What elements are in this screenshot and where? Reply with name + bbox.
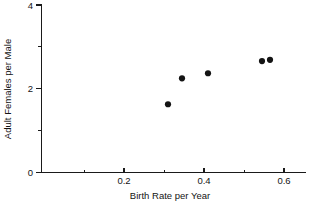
y-tick-label-4: 4: [28, 0, 33, 11]
x-tick-label-06: 0.6: [277, 175, 290, 186]
x-axis-major-ticks: [124, 168, 284, 173]
data-point-group: [165, 57, 273, 108]
y-tick-label-2: 2: [28, 83, 33, 94]
x-tick-label-04: 0.4: [197, 175, 210, 186]
data-point: [179, 75, 185, 81]
data-point: [259, 58, 265, 64]
data-point: [205, 70, 211, 76]
data-point: [165, 101, 171, 107]
y-axis-major-ticks: [36, 5, 42, 173]
x-axis-title: Birth Rate per Year: [130, 190, 210, 201]
plot-canvas: 0 2 4 0.2 0.4 0.6 Birth Rate per Year Ad…: [0, 0, 312, 207]
data-point: [267, 57, 273, 63]
y-tick-label-0: 0: [28, 167, 33, 178]
y-axis-title: Adult Females per Male: [2, 39, 13, 139]
x-tick-label-02: 0.2: [117, 175, 130, 186]
scatter-plot-figure: 0 2 4 0.2 0.4 0.6 Birth Rate per Year Ad…: [0, 0, 312, 207]
